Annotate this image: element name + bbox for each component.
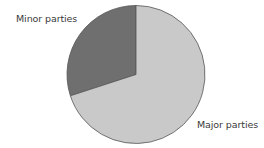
pie-chart: Minor parties Major parties bbox=[0, 0, 264, 148]
pie-slices bbox=[67, 6, 205, 144]
label-major-parties: Major parties bbox=[197, 119, 258, 130]
label-minor-parties: Minor parties bbox=[16, 13, 77, 24]
